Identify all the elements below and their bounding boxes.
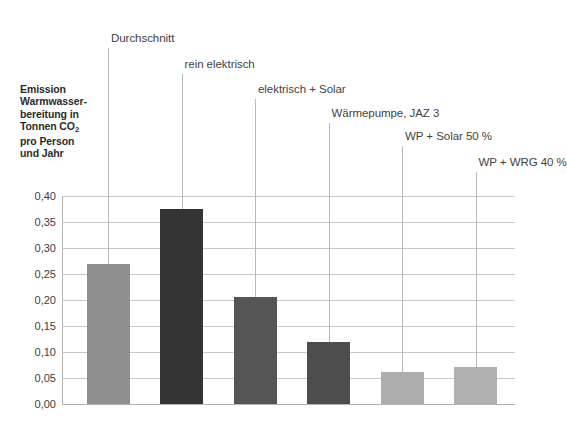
y-axis-title-line-2: Warmwasser- — [20, 95, 106, 107]
y-axis-title-line-4: Tonnen CO2 — [20, 120, 106, 134]
gridline — [62, 222, 515, 223]
y-axis-title-line-5: pro Person — [20, 135, 106, 147]
y-tick-label: 0,10 — [16, 346, 56, 358]
callout-label-4: Wärmepumpe, JAZ 3 — [332, 107, 440, 119]
bar-4 — [307, 342, 350, 404]
bar-3 — [234, 297, 277, 404]
callout-leader-line-6 — [476, 172, 477, 367]
y-axis-title-line-3: bereitung in — [20, 108, 106, 120]
callout-label-1: Durchschnitt — [111, 32, 174, 44]
bar-6 — [454, 367, 497, 404]
y-axis-tick-labels: 0,400,350,300,250,200,150,100,050,00 — [12, 196, 56, 404]
callout-leader-line-5 — [402, 146, 403, 372]
y-tick-label: 0,20 — [16, 294, 56, 306]
y-tick-label: 0,25 — [16, 268, 56, 280]
callout-leader-line-4 — [329, 123, 330, 342]
callout-label-5: WP + Solar 50 % — [405, 130, 492, 142]
y-tick-label: 0,35 — [16, 216, 56, 228]
bar-1 — [87, 264, 130, 404]
y-axis-title-line-4-text: Tonnen CO — [20, 120, 75, 132]
y-axis-title-line-1: Emission — [20, 83, 106, 95]
callout-leader-line-1 — [108, 48, 109, 264]
gridline — [62, 300, 515, 301]
callout-label-3: elektrisch + Solar — [258, 83, 346, 95]
callout-leader-line-3 — [255, 99, 256, 297]
callout-label-2: rein elektrisch — [185, 58, 255, 70]
bar-5 — [381, 372, 424, 404]
y-axis-title-line-6: und Jahr — [20, 147, 106, 159]
gridline — [62, 196, 515, 197]
bar-2 — [160, 209, 203, 404]
y-tick-label: 0,40 — [16, 190, 56, 202]
callout-leader-line-2 — [182, 74, 183, 209]
chart-plot-area — [62, 196, 515, 404]
y-tick-label: 0,30 — [16, 242, 56, 254]
gridline — [62, 274, 515, 275]
y-tick-label: 0,15 — [16, 320, 56, 332]
co2-subscript: 2 — [75, 125, 79, 134]
y-tick-label: 0,00 — [16, 398, 56, 410]
callout-label-6: WP + WRG 40 % — [479, 156, 567, 168]
gridline — [62, 378, 515, 379]
gridline — [62, 404, 515, 405]
y-axis-title: Emission Warmwasser- bereitung in Tonnen… — [20, 83, 106, 159]
gridline — [62, 326, 515, 327]
y-tick-label: 0,05 — [16, 372, 56, 384]
gridline — [62, 352, 515, 353]
gridline — [62, 248, 515, 249]
